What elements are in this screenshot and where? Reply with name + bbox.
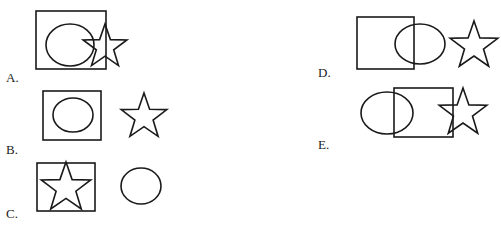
option-c-label[interactable]: C.	[6, 206, 18, 222]
option-b-label[interactable]: B.	[6, 142, 18, 158]
figure-canvas	[0, 0, 501, 225]
circle-icon	[46, 24, 94, 66]
star-icon	[121, 93, 167, 136]
star-icon	[41, 162, 90, 209]
circle-icon	[121, 168, 161, 204]
option-d-label[interactable]: D.	[318, 65, 331, 81]
circle-icon	[395, 24, 445, 64]
option-c-figure	[37, 162, 161, 211]
option-a-figure	[36, 11, 127, 69]
option-e-label[interactable]: E.	[318, 137, 329, 153]
square-icon	[37, 163, 95, 211]
option-a-label[interactable]: A.	[6, 70, 19, 86]
circle-icon	[361, 92, 413, 134]
star-icon	[450, 21, 498, 66]
option-d-figure	[357, 17, 498, 69]
star-icon	[83, 24, 127, 66]
option-b-figure	[43, 91, 167, 140]
circle-icon	[53, 98, 93, 132]
star-icon	[439, 88, 487, 133]
option-e-figure	[361, 88, 487, 137]
